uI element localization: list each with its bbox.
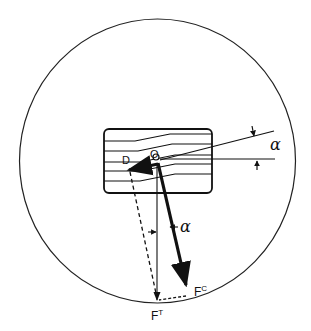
force-diagram: α O D α FC FT — [0, 0, 311, 331]
point-o-label: O — [150, 148, 159, 160]
force-c-label: FC — [194, 284, 207, 299]
alpha-label-right: α — [270, 135, 281, 154]
grain-block — [104, 129, 212, 193]
angle-arrow-top-icon — [252, 126, 254, 136]
point-d-label: D — [122, 154, 130, 166]
force-t-label: FT — [151, 308, 163, 323]
alpha-label-lower: α — [180, 217, 191, 236]
dashed-fc-to-ft — [159, 296, 186, 300]
